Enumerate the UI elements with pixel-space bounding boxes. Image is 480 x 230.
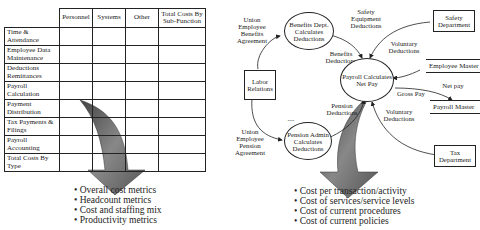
- row-label: Time & Attendance: [5, 28, 60, 46]
- flow-label-voluntary-top: Voluntary Deductions: [386, 40, 422, 54]
- right-metrics-list: Cost per transaction/activity Cost of se…: [294, 186, 414, 226]
- list-item: Productivity metrics: [74, 215, 162, 225]
- flow-label-net-pay: Net pay: [438, 82, 468, 89]
- table-row: Tax Payments & Filings: [5, 118, 206, 136]
- row-label: Employee Data Maintenance: [5, 46, 60, 64]
- list-item: Cost of services/service levels: [294, 196, 414, 206]
- table-row: Time & Attendance: [5, 28, 206, 46]
- table-row: Total Costs By Type: [5, 154, 206, 172]
- list-item: Cost of current procedures: [294, 206, 414, 216]
- table-header-row: Personnel Systems Other Total Costs By S…: [5, 9, 206, 28]
- entity-labor-relations: Labor Relations: [244, 70, 276, 100]
- table-row: Employee Data Maintenance: [5, 46, 206, 64]
- process-benefits: Benefits Dept. Calculates Deductions: [284, 12, 334, 50]
- column-header-personnel: Personnel: [60, 9, 93, 28]
- list-item: Overall cost metrics: [74, 185, 162, 195]
- flow-label-safety-equipment: Safety Equipment Deductions: [346, 8, 386, 29]
- entity-tax-department: Tax Department: [434, 145, 476, 167]
- row-label: Tax Payments & Filings: [5, 118, 60, 136]
- row-label: Deductions Remittances: [5, 64, 60, 82]
- left-metrics-list: Overall cost metrics Headcount metrics C…: [74, 185, 162, 225]
- table-corner: [5, 9, 60, 28]
- process-pension: Pension Admin Calculates Deductions: [284, 122, 332, 160]
- flow-label-voluntary-bottom: Voluntary Deductions: [380, 108, 418, 122]
- process-payroll: Payroll Calculates Net Pay: [340, 58, 394, 102]
- list-item: Headcount metrics: [74, 195, 162, 205]
- table-row: Payment Distribution: [5, 100, 206, 118]
- list-item: Cost per transaction/activity: [294, 186, 414, 196]
- column-header-other: Other: [126, 9, 159, 28]
- row-label: Payment Distribution: [5, 100, 60, 118]
- column-header-systems: Systems: [93, 9, 126, 28]
- flow-label-gross-pay: Gross Pay: [396, 90, 426, 97]
- table-row: Payroll Accounting: [5, 136, 206, 154]
- entity-safety-department: Safety Department: [433, 10, 475, 32]
- flow-label-pension-deductions: Pension Deductions: [324, 102, 360, 116]
- cost-table: Personnel Systems Other Total Costs By S…: [4, 8, 206, 172]
- row-label: Payroll Calculation: [5, 82, 60, 100]
- flow-label-ellipsis: ....: [284, 115, 298, 122]
- table-row: Payroll Calculation: [5, 82, 206, 100]
- table-row: Deductions Remittances: [5, 64, 206, 82]
- row-label: Payroll Accounting: [5, 136, 60, 154]
- list-item: Cost and staffing mix: [74, 205, 162, 215]
- store-employee-master: Employee Master: [426, 59, 480, 73]
- row-label: Total Costs By Type: [5, 154, 60, 172]
- flow-label-union-benefits: Union Employee Benefits Agreement: [232, 16, 272, 44]
- flow-label-union-pension: Union Employee Pension Agreement: [234, 128, 266, 156]
- column-header-total: Total Costs By Sub-Function: [159, 9, 206, 28]
- store-payroll-master: Payroll Master: [430, 100, 480, 114]
- list-item: Cost of current policies: [294, 216, 414, 226]
